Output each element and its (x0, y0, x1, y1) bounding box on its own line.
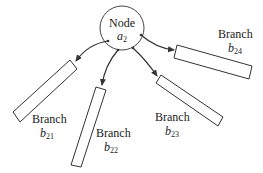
arrow-to-b21 (76, 41, 108, 61)
arrow-to-b22 (102, 50, 118, 85)
node-label: Node (109, 17, 135, 29)
branch-symbol-subscript: 21 (46, 132, 54, 141)
node-branch-diagram: Node a2 Branch b21 Branch b22 Branch b23… (0, 0, 263, 173)
branch-label-b21: Branch (32, 113, 67, 125)
branch-symbol-b23: b23 (165, 125, 179, 141)
branch-symbol-b21: b21 (40, 127, 54, 143)
branch-symbol-b22: b22 (104, 141, 118, 157)
branch-label-b23: Branch (155, 111, 190, 123)
branch-symbol-subscript: 22 (110, 146, 118, 155)
node-symbol-subscript: 2 (123, 35, 127, 44)
arrow-to-b24 (141, 35, 174, 50)
branch-label-b24: Branch (218, 28, 253, 40)
arrow-to-b23 (133, 48, 157, 76)
branch-symbol-subscript: 23 (171, 130, 179, 139)
branch-symbol-subscript: 24 (234, 47, 242, 56)
node-symbol: a2 (117, 30, 127, 46)
branch-label-b22: Branch (96, 127, 131, 139)
branch-symbol-b24: b24 (228, 42, 242, 58)
